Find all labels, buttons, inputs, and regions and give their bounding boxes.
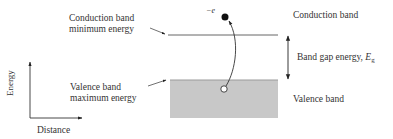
diagram-graphics [0,0,393,139]
excitation-arrow [226,21,236,86]
electron-dot [222,14,229,21]
hole-circle [221,86,227,92]
energy-axis-label: Energy [5,70,16,96]
distance-axis-label: Distance [37,125,70,136]
band-gap-label: Band gap energy, Eg [297,52,375,66]
vb-max-pointer-arrow [148,80,166,86]
valence-band-label: Valence band [293,94,344,105]
band-gap-diagram: Conduction band minimum energy Valence b… [0,0,393,139]
cb-min-pointer-arrow [150,28,165,34]
cb-min-label: Conduction band minimum energy [69,13,134,34]
electron-label: −e [206,6,215,17]
band-gap-subscript: g [371,56,375,64]
vb-max-label: Valence band maximum energy [70,82,137,103]
conduction-band-label: Conduction band [293,10,358,21]
